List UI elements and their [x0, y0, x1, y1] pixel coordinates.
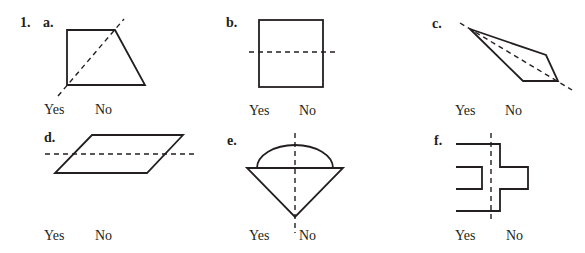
symmetry-line-c	[460, 23, 572, 90]
figure-c-kite	[460, 23, 572, 90]
figure-a-trapezoid	[58, 19, 145, 96]
figure-e-cone	[247, 133, 343, 233]
figures-canvas	[0, 0, 585, 253]
figure-b-square	[249, 20, 337, 87]
figure-d-parallelogram	[45, 135, 196, 173]
figure-f-comb	[456, 133, 528, 223]
